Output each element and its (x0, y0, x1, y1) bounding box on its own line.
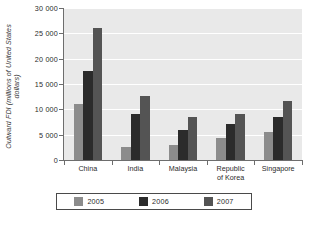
y-axis-tick (59, 109, 63, 110)
x-axis-label-line2: of Korea (217, 174, 245, 183)
x-axis-line (63, 160, 303, 161)
bar-china-2005 (74, 104, 84, 160)
legend-swatch-2006 (139, 197, 148, 206)
y-axis-title-line2: dollars) (13, 24, 21, 148)
x-axis-label: Malaysia (169, 165, 197, 174)
y-axis-tick-label: 15 000 (35, 80, 58, 89)
legend-label-2006: 2006 (152, 197, 169, 206)
gridline (64, 8, 302, 9)
x-axis-label-line1: China (78, 164, 97, 173)
plot-area (64, 8, 302, 160)
y-axis-tick-label: 0 (54, 156, 58, 165)
x-axis-tick (112, 161, 113, 165)
bar-china-2006 (83, 71, 93, 160)
y-axis-tick-labels: 05 00010 00015 00020 00025 00030 000 (26, 8, 61, 160)
y-axis-title-line1: Outward FDI (millions of United States (5, 24, 13, 148)
legend-label-2007: 2007 (217, 197, 234, 206)
bar-malaysia-2006 (178, 130, 188, 160)
legend-swatch-2005 (74, 197, 83, 206)
bar-india-2006 (131, 114, 141, 160)
x-axis-tick (64, 161, 65, 165)
bar-singapore-2005 (264, 132, 274, 160)
bar-singapore-2006 (273, 117, 283, 160)
y-axis-tick (59, 59, 63, 60)
y-axis-tick-label: 10 000 (35, 105, 58, 114)
x-axis-label: China (78, 165, 97, 174)
y-axis-tick-label: 25 000 (35, 29, 58, 38)
y-axis-tick (59, 160, 63, 161)
y-axis-title: Outward FDI (millions of United States d… (0, 0, 26, 172)
x-axis-tick (207, 161, 208, 165)
x-axis-label: India (128, 165, 144, 174)
y-axis-tick (59, 8, 63, 9)
bar-republic-of-korea-2006 (226, 124, 236, 160)
y-axis-tick (59, 135, 63, 136)
x-axis-category-labels: ChinaIndiaMalaysiaRepublicof KoreaSingap… (64, 165, 302, 189)
bar-china-2007 (93, 28, 103, 160)
x-axis-label-line1: India (128, 164, 144, 173)
legend-item-2005[interactable]: 2005 (74, 197, 104, 206)
legend-item-2007[interactable]: 2007 (204, 197, 234, 206)
y-axis-tick-label: 30 000 (35, 4, 58, 13)
x-axis-tick (254, 161, 255, 165)
bar-malaysia-2005 (169, 145, 179, 160)
x-axis-label: Singapore (262, 165, 295, 174)
x-axis-label-line1: Malaysia (169, 164, 197, 173)
x-axis-tick (302, 161, 303, 165)
legend-swatch-2007 (204, 197, 213, 206)
y-axis-tick-label: 20 000 (35, 54, 58, 63)
x-axis-label-line1: Republic (217, 164, 245, 173)
bar-india-2005 (121, 147, 131, 160)
x-axis-tick (159, 161, 160, 165)
x-axis-label: Republicof Korea (217, 165, 245, 182)
y-axis-tick (59, 33, 63, 34)
legend-label-2005: 2005 (87, 197, 104, 206)
legend-item-2006[interactable]: 2006 (139, 197, 169, 206)
bar-malaysia-2007 (188, 117, 198, 160)
chart-figure: Outward FDI (millions of United States d… (0, 0, 311, 225)
x-axis-label-line1: Singapore (262, 164, 295, 173)
chart-legend: 200520062007 (56, 193, 252, 210)
y-axis-tick (59, 84, 63, 85)
bar-india-2007 (140, 96, 150, 160)
bar-singapore-2007 (283, 101, 293, 160)
bar-republic-of-korea-2005 (216, 138, 226, 160)
y-axis-tick-label: 5 000 (39, 130, 58, 139)
bar-republic-of-korea-2007 (235, 114, 245, 160)
